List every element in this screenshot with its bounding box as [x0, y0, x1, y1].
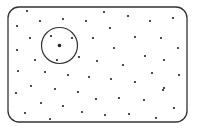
- data-point: [54, 88, 56, 90]
- data-point: [15, 92, 17, 94]
- data-point: [134, 36, 136, 38]
- data-point: [172, 17, 174, 19]
- data-point: [49, 118, 51, 120]
- data-point: [143, 99, 145, 101]
- data-point: [163, 87, 165, 89]
- data-point: [85, 20, 87, 22]
- data-point: [162, 89, 164, 91]
- data-point: [16, 25, 18, 27]
- data-point: [128, 113, 130, 115]
- data-point: [39, 20, 41, 22]
- data-point: [62, 18, 64, 20]
- data-point: [29, 37, 31, 39]
- data-point: [62, 105, 64, 107]
- data-point: [177, 47, 179, 49]
- bounding-frame: [8, 7, 187, 122]
- data-point: [95, 98, 97, 100]
- data-point: [92, 37, 94, 39]
- data-point: [104, 114, 106, 116]
- data-point: [160, 37, 162, 39]
- data-point: [16, 49, 18, 51]
- data-point: [71, 37, 73, 39]
- data-point: [96, 60, 98, 62]
- data-point: [122, 64, 124, 66]
- neighborhood-center-point: [58, 44, 62, 48]
- data-point: [173, 107, 175, 109]
- data-point: [17, 70, 19, 72]
- point-cloud-diagram: [0, 0, 197, 132]
- data-point: [151, 72, 153, 74]
- data-point: [78, 56, 80, 58]
- data-point: [40, 102, 42, 104]
- data-point: [149, 20, 151, 22]
- data-point: [56, 59, 58, 61]
- data-point: [103, 11, 105, 13]
- data-point: [24, 112, 26, 114]
- data-point: [144, 55, 146, 57]
- point-set: [15, 10, 180, 120]
- data-point: [34, 59, 36, 61]
- data-point: [81, 111, 83, 113]
- data-point: [67, 74, 69, 76]
- data-point: [88, 76, 90, 78]
- data-point: [50, 35, 52, 37]
- data-point: [113, 47, 115, 49]
- data-point: [127, 15, 129, 17]
- diagram-canvas: [0, 0, 197, 132]
- data-point: [30, 85, 32, 87]
- data-point: [134, 81, 136, 83]
- data-point: [44, 71, 46, 73]
- data-point: [77, 91, 79, 93]
- data-point: [118, 97, 120, 99]
- data-point: [178, 74, 180, 76]
- data-point: [155, 117, 157, 119]
- data-point: [26, 10, 28, 12]
- data-point: [109, 27, 111, 29]
- data-point: [163, 59, 165, 61]
- data-point: [110, 78, 112, 80]
